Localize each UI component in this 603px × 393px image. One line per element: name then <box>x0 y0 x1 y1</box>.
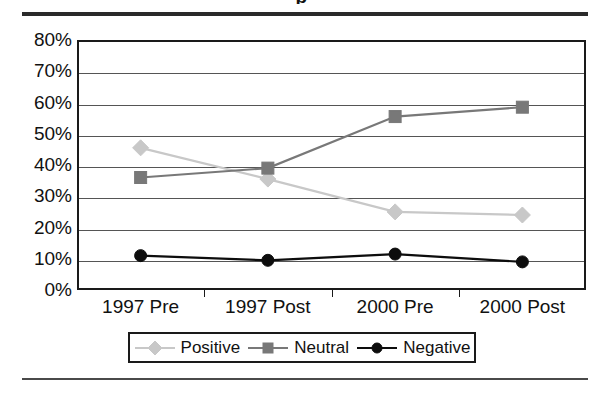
y-axis-tick-label: 20% <box>2 217 72 239</box>
legend-item-positive[interactable]: Positive <box>134 338 241 358</box>
x-axis-tick-label: 2000 Pre <box>357 296 434 318</box>
legend-swatch-circle-icon <box>356 340 398 356</box>
gridline <box>79 73 584 74</box>
x-axis-tick-label: 2000 Post <box>480 296 566 318</box>
y-axis-tick-label: 50% <box>2 123 72 145</box>
gridline <box>79 198 584 199</box>
y-axis-tick-label: 30% <box>2 185 72 207</box>
legend-item-neutral[interactable]: Neutral <box>247 338 349 358</box>
legend-label: Positive <box>181 338 241 358</box>
gridline <box>79 167 584 168</box>
chart-figure: p 0%10%20%30%40%50%60%70%80% 1997 Pre199… <box>0 0 603 393</box>
gridline <box>79 261 584 262</box>
gridline <box>79 105 584 106</box>
y-axis-tick-label: 40% <box>2 154 72 176</box>
chart-title-fragment: p <box>0 0 603 4</box>
y-axis-tick-label: 60% <box>2 92 72 114</box>
y-axis-tick-label: 70% <box>2 60 72 82</box>
plot-area <box>77 40 586 290</box>
x-axis-tick-labels: 1997 Pre1997 Post2000 Pre2000 Post <box>77 296 586 322</box>
legend-item-negative[interactable]: Negative <box>356 338 470 358</box>
x-axis-tick-label: 1997 Pre <box>102 296 179 318</box>
gridline <box>79 230 584 231</box>
chart-legend: PositiveNeutralNegative <box>128 332 476 363</box>
y-axis-tick-label: 80% <box>2 29 72 51</box>
bottom-divider-rule <box>22 378 588 380</box>
y-axis-tick-label: 10% <box>2 248 72 270</box>
x-axis-tick-mark <box>459 290 460 297</box>
legend-label: Neutral <box>294 338 349 358</box>
gridline <box>79 136 584 137</box>
legend-label: Negative <box>403 338 470 358</box>
x-axis-tick-mark <box>204 290 205 297</box>
top-divider-rule <box>22 12 588 16</box>
x-axis-tick-mark <box>332 290 333 297</box>
legend-swatch-diamond-icon <box>134 340 176 356</box>
y-axis-tick-label: 0% <box>2 279 72 301</box>
legend-swatch-square-icon <box>247 340 289 356</box>
y-axis-tick-labels: 0%10%20%30%40%50%60%70%80% <box>0 0 72 393</box>
x-axis-tick-label: 1997 Post <box>225 296 311 318</box>
